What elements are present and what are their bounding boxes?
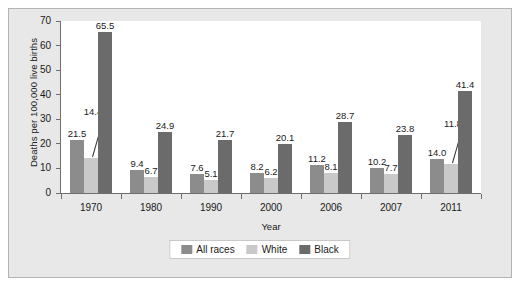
- chart-legend: All racesWhiteBlack: [169, 240, 350, 259]
- legend-label: All races: [196, 244, 234, 255]
- y-tick: 60: [9, 40, 61, 52]
- legend-label: Black: [314, 244, 338, 255]
- bar-group: 21.514.465.5: [70, 21, 112, 193]
- bar: [338, 122, 352, 193]
- y-tick-label: 50: [40, 64, 51, 76]
- y-tick-label: 30: [40, 113, 51, 125]
- x-tick-mark: [481, 194, 482, 199]
- bar: [218, 140, 232, 193]
- x-tick-label: 1980: [121, 202, 181, 213]
- bar-group: 14.011.841.4: [430, 21, 472, 193]
- bar: [98, 32, 112, 193]
- y-tick: 70: [9, 15, 61, 27]
- legend-swatch-icon: [299, 245, 310, 254]
- bar: [278, 144, 292, 193]
- x-tick-label: 2006: [301, 202, 361, 213]
- bar-value-label: 28.7: [330, 110, 360, 121]
- x-tick-mark: [181, 194, 182, 199]
- legend-item[interactable]: All races: [178, 244, 237, 255]
- legend-label: White: [262, 244, 288, 255]
- y-axis-line: [60, 21, 61, 194]
- bar: [430, 159, 444, 193]
- bar: [458, 91, 472, 193]
- bar-group: 11.28.128.7: [310, 21, 352, 193]
- bar-value-label: 24.9: [150, 120, 180, 131]
- bar-value-label: 23.8: [390, 123, 420, 134]
- x-tick-mark: [361, 194, 362, 199]
- x-tick-label: 2011: [421, 202, 481, 213]
- x-tick-label: 1970: [61, 202, 121, 213]
- x-tick-label: 1990: [181, 202, 241, 213]
- y-tick-label: 10: [40, 162, 51, 174]
- bar: [398, 135, 412, 193]
- bar: [384, 174, 398, 193]
- bar-value-label: 65.5: [90, 20, 120, 31]
- legend-item[interactable]: White: [244, 244, 291, 255]
- bar-group: 8.26.220.1: [250, 21, 292, 193]
- x-tick-mark: [301, 194, 302, 199]
- x-tick-mark: [421, 194, 422, 199]
- x-tick-label: 2007: [361, 202, 421, 213]
- x-axis-title: Year: [61, 221, 481, 232]
- y-tick: 0: [9, 187, 61, 199]
- y-tick: 50: [9, 64, 61, 76]
- bar-value-label: 21.7: [210, 128, 240, 139]
- y-tick-label: 70: [40, 15, 51, 27]
- bar-value-label: 21.5: [62, 128, 92, 139]
- x-tick-mark: [121, 194, 122, 199]
- bar-group: 10.27.723.8: [370, 21, 412, 193]
- bar: [70, 140, 84, 193]
- plot-area: 21.514.465.59.46.724.97.65.121.78.26.220…: [61, 21, 481, 193]
- bar-value-label: 41.4: [450, 79, 480, 90]
- y-tick-label: 40: [40, 89, 51, 101]
- bar-value-label: 20.1: [270, 132, 300, 143]
- y-tick-label: 0: [45, 187, 51, 199]
- y-tick: 20: [9, 138, 61, 150]
- y-tick-label: 20: [40, 138, 51, 150]
- bar: [158, 132, 172, 193]
- x-tick-label: 2000: [241, 202, 301, 213]
- x-tick-mark: [61, 194, 62, 199]
- bar-group: 9.46.724.9: [130, 21, 172, 193]
- y-tick: 40: [9, 89, 61, 101]
- bar: [264, 178, 278, 193]
- x-tick-mark: [241, 194, 242, 199]
- bar: [444, 164, 458, 193]
- chart-figure: Deaths per 100,000 live births 010203040…: [8, 8, 512, 278]
- bar-group: 7.65.121.7: [190, 21, 232, 193]
- bar-value-label: 14.0: [422, 147, 452, 158]
- legend-swatch-icon: [181, 245, 192, 254]
- bar: [324, 173, 338, 193]
- legend-swatch-icon: [247, 245, 258, 254]
- y-tick-label: 60: [40, 40, 51, 52]
- bar: [204, 180, 218, 193]
- bar: [144, 177, 158, 193]
- legend-item[interactable]: Black: [296, 244, 341, 255]
- bar: [84, 158, 98, 193]
- x-axis-line: [60, 193, 481, 194]
- y-tick: 10: [9, 162, 61, 174]
- y-tick: 30: [9, 113, 61, 125]
